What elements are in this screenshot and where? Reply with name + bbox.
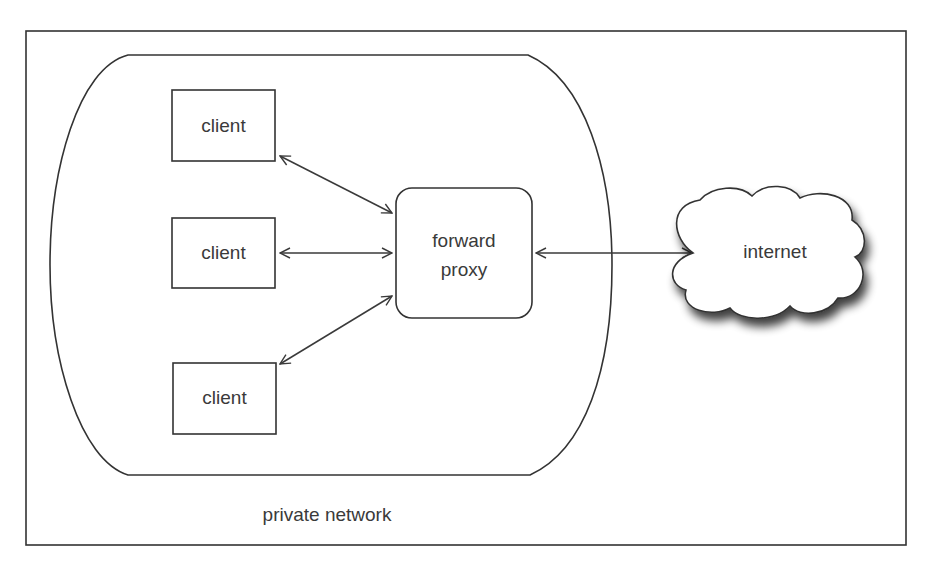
internet-label: internet — [743, 241, 807, 262]
client-label: client — [202, 387, 247, 408]
client-label: client — [201, 115, 246, 136]
client-label: client — [201, 242, 246, 263]
proxy-label-line2: proxy — [441, 259, 488, 280]
link-client3-proxy — [280, 296, 392, 364]
client-node-3: client — [173, 363, 276, 434]
client-node-1: client — [172, 90, 275, 161]
internet-node: internet — [673, 186, 865, 318]
link-client1-proxy — [280, 156, 392, 213]
forward-proxy-node: forward proxy — [396, 188, 532, 318]
client-node-2: client — [172, 218, 275, 288]
proxy-box — [396, 188, 532, 318]
proxy-label-line1: forward — [432, 230, 495, 251]
private-network-label: private network — [263, 504, 392, 525]
diagram-canvas: client client client forward proxy inter… — [0, 0, 926, 562]
